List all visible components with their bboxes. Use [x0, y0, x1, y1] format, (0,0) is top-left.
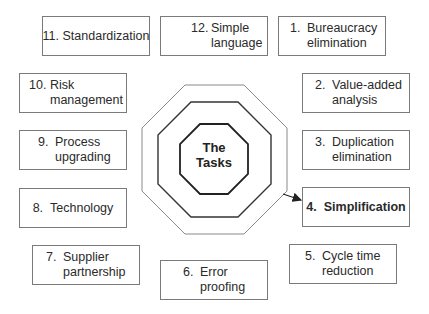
task-number: 2. [315, 78, 325, 93]
task-number: 10. [29, 78, 46, 93]
task-label-line2: partnership [63, 265, 126, 280]
task-box-value-added-analysis: 2. Value-added analysis [302, 73, 410, 113]
task-label-line2: analysis [332, 93, 377, 108]
task-number: 5. [305, 249, 315, 264]
task-label-line2: elimination [332, 150, 392, 165]
task-label: Technology [50, 201, 113, 216]
task-label: Simplification [324, 200, 406, 215]
task-label-line1: Value-added [332, 78, 402, 93]
task-box-standardization: 11. Standardization [42, 16, 150, 56]
task-box-technology: 8. Technology [19, 188, 127, 228]
task-label-line1: Supplier [63, 250, 109, 265]
task-number: 3. [315, 135, 325, 150]
task-label-line2: elimination [307, 36, 367, 51]
task-label-line1: Simple [211, 21, 249, 36]
task-label-line1: Error [200, 265, 228, 280]
task-box-supplier-partnership: 7. Supplier partnership [32, 245, 140, 285]
task-number: 1. [290, 21, 300, 36]
task-number: 4. [306, 200, 316, 215]
task-box-cycle-time-reduction: 5. Cycle time reduction [289, 244, 397, 284]
task-label-line2: language [211, 36, 262, 51]
task-number: 6. [183, 265, 193, 280]
task-number: 7. [46, 250, 56, 265]
task-box-simplification: 4. Simplification [302, 187, 410, 227]
task-number: 12. [191, 21, 208, 36]
task-label: Standardization [63, 29, 150, 44]
task-label-line2: upgrading [55, 150, 111, 165]
center-label: The Tasks [184, 140, 244, 170]
task-label-line1: Risk [50, 78, 74, 93]
task-box-error-proofing: 6. Error proofing [160, 260, 268, 300]
task-box-process-upgrading: 9. Process upgrading [19, 130, 127, 170]
task-label-line1: Duplication [332, 135, 394, 150]
task-label-line2: reduction [322, 264, 373, 279]
task-label-line2: proofing [200, 280, 245, 295]
task-label-line1: Cycle time [322, 249, 380, 264]
center-label-line2: Tasks [184, 155, 244, 170]
center-label-line1: The [184, 140, 244, 155]
task-number: 8. [33, 201, 43, 216]
task-label-line1: Bureaucracy [307, 21, 377, 36]
task-label-line1: Process [55, 135, 100, 150]
task-box-duplication-elimination: 3. Duplication elimination [302, 130, 410, 170]
task-label-line2: management [50, 93, 123, 108]
task-number: 11. [43, 29, 59, 44]
task-box-risk-management: 10. Risk management [19, 73, 127, 113]
task-box-bureaucracy-elimination: 1. Bureaucracy elimination [278, 16, 386, 56]
arrow-to-simplification [283, 194, 301, 200]
task-box-simple-language: 12. Simple language [160, 16, 268, 56]
task-number: 9. [38, 135, 48, 150]
